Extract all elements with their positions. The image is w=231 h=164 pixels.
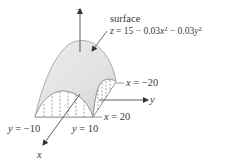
y-neg10-label: y = −10: [7, 123, 40, 134]
surface-label: surface: [110, 13, 141, 24]
x-neg20-label: x = −20: [125, 77, 158, 88]
surface-equation: z = 15 − 0.03x2 − 0.03y2: [109, 25, 202, 37]
x-pos20-label: x = 20: [103, 111, 130, 122]
z-axis-label: z: [76, 5, 81, 16]
eq-part-2: − 0.03: [168, 26, 195, 36]
x-axis-label: x: [36, 149, 42, 160]
eq-part-1: = 15 − 0.03: [114, 26, 161, 36]
diagram-canvas: z y x surface z = 15 − 0.03x2 − 0.03y2 x…: [0, 0, 231, 164]
y-axis-label: y: [149, 94, 155, 105]
y-pos10-label: y = 10: [71, 123, 98, 134]
paraboloid-diagram: z y x surface z = 15 − 0.03x2 − 0.03y2 x…: [0, 0, 231, 164]
eq-y-exp: 2: [198, 25, 201, 32]
